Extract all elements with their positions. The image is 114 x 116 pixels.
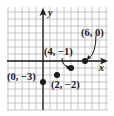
x-axis-label: x	[99, 63, 104, 73]
point-label-4-neg1: (4, −1)	[44, 47, 73, 58]
coordinate-plane-figure: x y (0, −3) (2, −2) (4, −1) (6, 0)	[0, 0, 114, 116]
data-point	[40, 79, 46, 85]
point-label-0-neg3: (0, −3)	[7, 72, 36, 83]
y-axis-label: y	[48, 8, 52, 18]
grid-lines	[7, 7, 108, 110]
point-label-2-neg2: (2, −2)	[51, 80, 80, 91]
data-point	[82, 58, 88, 64]
data-point	[68, 65, 74, 71]
data-point	[54, 72, 60, 78]
point-label-6-0: (6, 0)	[81, 28, 104, 39]
coordinate-grid	[0, 0, 114, 116]
y-axis	[40, 8, 47, 110]
